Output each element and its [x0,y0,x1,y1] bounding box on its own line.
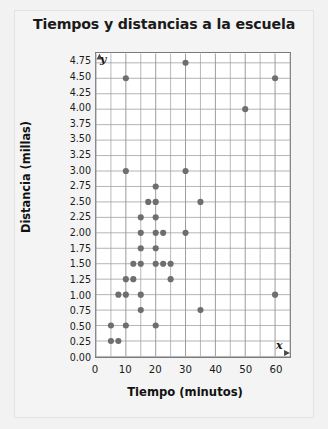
x-tick-label: 50 [231,364,261,375]
y-tick-label: 2.00 [47,227,91,238]
y-tick-label: 0.00 [47,352,91,363]
y-tick-label: 0.50 [47,321,91,332]
y-tick-label: 3.50 [47,133,91,144]
y-axis-tick-labels: 0.000.250.500.751.001.251.501.752.002.25… [45,52,91,358]
chart-page: Tiempos y distancias a la escuela Distan… [0,0,328,429]
x-axis-label: Tiempo (minutos) [60,385,310,399]
x-axis-letter: x [276,339,283,352]
x-tick-label: 40 [201,364,231,375]
y-tick-label: 2.25 [47,211,91,222]
y-tick-label: 3.00 [47,165,91,176]
y-tick-label: 4.25 [47,87,91,98]
y-tick-label: 4.00 [47,102,91,113]
y-tick-label: 2.50 [47,196,91,207]
y-tick-label: 3.25 [47,149,91,160]
y-axis-label: Distancia (millas) [19,77,33,277]
y-tick-label: 1.25 [47,274,91,285]
y-tick-label: 1.00 [47,290,91,301]
y-tick-label: 3.75 [47,118,91,129]
y-tick-label: 0.25 [47,336,91,347]
page-title: Tiempos y distancias a la escuela [0,16,328,32]
x-tick-label: 60 [261,364,291,375]
x-tick-label: 30 [170,364,200,375]
y-tick-label: 1.50 [47,258,91,269]
x-tick-label: 0 [80,364,110,375]
axis-arrows [96,53,290,357]
x-tick-label: 10 [110,364,140,375]
y-tick-label: 1.75 [47,243,91,254]
y-axis-letter: y [100,53,106,66]
y-tick-label: 4.75 [47,55,91,66]
x-axis-tick-labels: 0102030405060 [95,364,295,380]
x-tick-label: 20 [140,364,170,375]
y-tick-label: 2.75 [47,180,91,191]
y-tick-label: 4.50 [47,71,91,82]
y-tick-label: 0.75 [47,305,91,316]
plot-area [95,52,291,358]
